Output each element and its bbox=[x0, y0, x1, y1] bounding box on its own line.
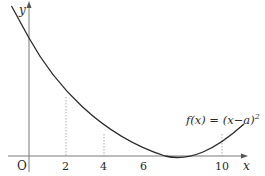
graph-canvas: y O 2 4 6 10 x f(x) = (x−a)2 bbox=[0, 0, 265, 176]
function-label-exponent: 2 bbox=[254, 112, 260, 121]
y-axis-label: y bbox=[18, 3, 26, 17]
parabola-curve bbox=[12, 6, 245, 158]
x-tick-4: 4 bbox=[100, 160, 107, 173]
function-graph: y O 2 4 6 10 x f(x) = (x−a)2 bbox=[0, 0, 265, 176]
x-tick-10: 10 bbox=[215, 160, 229, 173]
x-axis-arrow-icon bbox=[241, 154, 248, 159]
origin-label: O bbox=[17, 159, 27, 173]
x-axis-label: x bbox=[243, 159, 250, 173]
y-axis-arrow-icon bbox=[27, 1, 32, 8]
function-label-text: f(x) = (x−a) bbox=[185, 113, 255, 127]
function-label: f(x) = (x−a)2 bbox=[185, 112, 260, 127]
x-tick-6: 6 bbox=[140, 160, 147, 173]
x-tick-2: 2 bbox=[62, 160, 69, 173]
